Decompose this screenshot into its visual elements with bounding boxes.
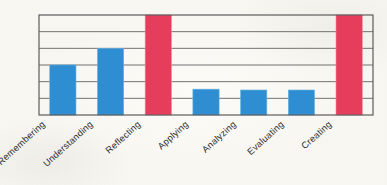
x-tick-label-group: RememberingUnderstandingReflectingApplyi… (0, 119, 333, 169)
gridline-group (39, 32, 373, 99)
x-tick-label-reflecting: Reflecting (104, 119, 143, 155)
x-tick-label-evaluating: Evaluating (245, 119, 285, 157)
bar-applying[interactable] (193, 89, 219, 115)
bar-analyzing[interactable] (241, 90, 267, 115)
x-tick-label-creating: Creating (299, 119, 333, 151)
bar-understanding[interactable] (97, 48, 123, 115)
x-tick-label-remembering: Remembering (0, 119, 47, 167)
bar-chart: RememberingUnderstandingReflectingApplyi… (0, 0, 387, 185)
bar-reflecting[interactable] (145, 15, 171, 115)
x-tick-label-understanding: Understanding (41, 119, 95, 169)
bar-evaluating[interactable] (288, 90, 314, 115)
bar-remembering[interactable] (50, 65, 76, 115)
chart-canvas: RememberingUnderstandingReflectingApplyi… (0, 0, 387, 185)
x-tick-label-applying: Applying (156, 119, 190, 151)
x-tick-label-analyzing: Analyzing (200, 119, 238, 155)
bar-creating[interactable] (336, 15, 362, 115)
